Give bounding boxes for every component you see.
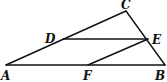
label-b: B bbox=[154, 69, 165, 82]
label-d: D bbox=[44, 32, 56, 46]
geometry-figure: A B C D E F bbox=[0, 0, 167, 82]
label-f: F bbox=[82, 69, 93, 82]
label-a: A bbox=[0, 69, 10, 82]
segment-fe bbox=[88, 39, 148, 65]
label-e: E bbox=[151, 33, 162, 47]
label-c: C bbox=[121, 0, 131, 12]
